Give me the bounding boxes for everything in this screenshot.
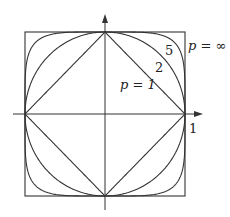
label-p-2: 2 bbox=[155, 60, 163, 75]
label-p-5: 5 bbox=[165, 43, 173, 58]
x-tick-label-1: 1 bbox=[189, 121, 197, 136]
label-p-1: p = 1 bbox=[120, 77, 156, 92]
unit-ball-diagram: p = ∞ 5 2 p = 1 1 bbox=[0, 0, 230, 217]
x-axis-arrow-icon bbox=[194, 111, 203, 117]
y-axis-arrow-icon bbox=[102, 14, 108, 23]
label-p-infinity: p = ∞ bbox=[188, 38, 226, 53]
